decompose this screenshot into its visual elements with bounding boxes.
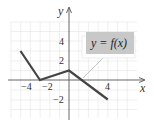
tick-y-2: 2: [59, 55, 64, 66]
function-label-box: y = f(x): [82, 32, 135, 58]
y-axis-label: y: [57, 4, 64, 18]
tick-y-4: 4: [59, 36, 64, 47]
function-graph: −4 −2 4 4 2 −2 x y y = f(x): [0, 0, 154, 124]
tick-y-neg2: −2: [53, 94, 64, 105]
tick-x-neg4: −4: [21, 81, 32, 92]
x-axis-label: x: [139, 81, 146, 95]
tick-x-4: 4: [105, 81, 110, 92]
tick-x-neg2: −2: [42, 81, 53, 92]
annotation-leader-line: [83, 55, 106, 78]
function-label: y = f(x): [90, 36, 127, 50]
